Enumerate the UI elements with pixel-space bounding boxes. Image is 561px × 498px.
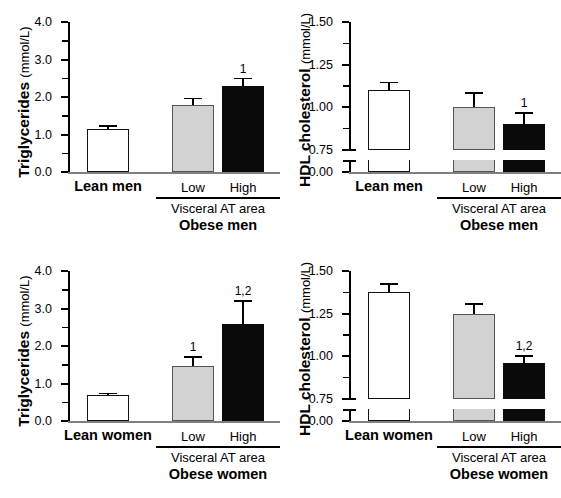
y-tick-label: 1.00: [309, 101, 333, 114]
y-axis-title-triglycerides-men: Triglycerides (mmol/L): [14, 17, 34, 187]
bar-high: [503, 124, 545, 150]
bar-lean-women: [368, 292, 410, 399]
y-tick-label: 1.00: [309, 350, 333, 363]
bar-lower-segment: [453, 160, 495, 172]
x-label-low: Low: [181, 181, 205, 194]
y-tick-minor: [62, 153, 68, 155]
group-label-visceral-at-area: Visceral AT area: [171, 202, 265, 215]
y-tick-major: 2.0: [61, 345, 68, 347]
y-tick-major: 0.00: [342, 171, 349, 173]
significance-annotation: 1,2: [516, 340, 533, 352]
group-label-visceral-at-area: Visceral AT area: [452, 202, 546, 215]
y-tick-minor: [343, 128, 349, 130]
error-bar: [242, 300, 244, 323]
y-tick-label: 3.0: [35, 302, 52, 315]
y-tick-label: 1.50: [309, 265, 333, 278]
error-bar-cap: [380, 283, 398, 285]
y-tick-label: 0.0: [35, 415, 52, 428]
y-tick-major: 4.0: [61, 270, 68, 272]
group-title-obese: Obese men: [460, 218, 538, 233]
y-tick-minor: [343, 43, 349, 45]
y-tick-major: 3.0: [61, 59, 68, 61]
panel-triglycerides-women: Triglycerides (mmol/L)0.01.02.03.04.011,…: [0, 249, 280, 498]
y-tick-label: 0.0: [35, 166, 52, 179]
error-bar-cap: [184, 356, 202, 358]
y-tick-major: 1.25: [342, 64, 349, 66]
bar-lean-men: [87, 129, 129, 172]
plot-area-triglycerides-women: 0.01.02.03.04.011,2Lean womenLowHighVisc…: [68, 271, 268, 421]
y-tick-major: 3.0: [61, 308, 68, 310]
y-tick-major: 1.25: [342, 313, 349, 315]
y-tick-label: 0.75: [309, 144, 333, 157]
x-label-high: High: [511, 430, 538, 443]
x-label-lean: Lean women: [345, 428, 433, 443]
y-tick-label: 1.0: [35, 377, 52, 390]
x-axis-baseline: [349, 421, 561, 423]
bar-low: [172, 105, 214, 173]
x-label-high: High: [230, 430, 257, 443]
group-title-obese: Obese women: [450, 467, 548, 482]
y-tick-major: 4.0: [61, 21, 68, 23]
bar-high: [222, 86, 264, 172]
y-axis-spine: [68, 271, 70, 421]
y-tick-major: 1.0: [61, 383, 68, 385]
y-tick-minor: [62, 40, 68, 42]
bar-lower-segment: [368, 409, 410, 421]
y-tick-minor: [343, 377, 349, 379]
significance-annotation: 1: [190, 341, 197, 353]
y-tick-major: 1.0: [61, 134, 68, 136]
x-label-low: Low: [462, 430, 486, 443]
y-tick-minor: [62, 402, 68, 404]
group-label-visceral-at-area: Visceral AT area: [171, 451, 265, 464]
bar-low: [453, 314, 495, 399]
error-bar-cap: [515, 112, 533, 114]
group-title-obese: Obese women: [169, 467, 267, 482]
bar-high: [222, 324, 264, 422]
y-tick-major: 0.0: [61, 171, 68, 173]
significance-annotation: 1: [521, 97, 528, 109]
y-tick-minor: [62, 115, 68, 117]
y-tick-label: 1.25: [309, 307, 333, 320]
significance-annotation: 1,2: [235, 285, 252, 297]
y-axis-title-unit: (mmol/L): [17, 275, 32, 326]
group-label-visceral-at-area: Visceral AT area: [452, 451, 546, 464]
y-axis-title-triglycerides-women: Triglycerides (mmol/L): [14, 266, 34, 436]
axis-break-cap-lower: [343, 160, 356, 162]
error-bar: [523, 112, 525, 124]
y-tick-major: 1.50: [342, 21, 349, 23]
y-axis-title-unit: (mmol/L): [17, 26, 32, 77]
y-axis-title-main: Triglycerides: [15, 82, 32, 178]
y-axis-spine: [349, 271, 351, 399]
y-tick-label: 2.0: [35, 340, 52, 353]
y-tick-minor: [343, 292, 349, 294]
error-bar-cap: [184, 98, 202, 100]
y-tick-label: 1.0: [35, 128, 52, 141]
error-bar-cap: [234, 300, 252, 302]
y-axis-title-main: Triglycerides: [15, 331, 32, 427]
y-tick-minor: [62, 364, 68, 366]
bar-lower-segment: [368, 160, 410, 172]
bar-lower-segment: [453, 409, 495, 421]
panel-hdl-men: HDL cholesterol (mmol/L)0.000.751.001.25…: [281, 0, 561, 249]
x-label-low: Low: [462, 181, 486, 194]
y-tick-label: 1.25: [309, 58, 333, 71]
panel-triglycerides-men: Triglycerides (mmol/L)0.01.02.03.04.01Le…: [0, 0, 280, 249]
y-tick-label: 4.0: [35, 16, 52, 29]
x-axis-baseline: [68, 421, 280, 423]
error-bar-cap: [465, 92, 483, 94]
y-tick-major: 2.0: [61, 96, 68, 98]
error-bar-cap: [234, 78, 252, 80]
group-rule: [437, 446, 561, 448]
x-label-lean: Lean men: [74, 179, 142, 194]
y-tick-minor: [62, 327, 68, 329]
bar-lower-segment: [503, 160, 545, 172]
y-tick-major: 1.50: [342, 270, 349, 272]
group-rule: [437, 197, 561, 199]
y-tick-label: 4.0: [35, 265, 52, 278]
plot-area-hdl-women: 0.000.751.001.251.501,2Lean womenLowHigh…: [349, 271, 549, 421]
bar-lower-segment: [503, 409, 545, 421]
y-tick-label: 3.0: [35, 53, 52, 66]
x-label-lean: Lean men: [355, 179, 423, 194]
x-axis-baseline: [68, 172, 280, 174]
error-bar-cap: [465, 303, 483, 305]
